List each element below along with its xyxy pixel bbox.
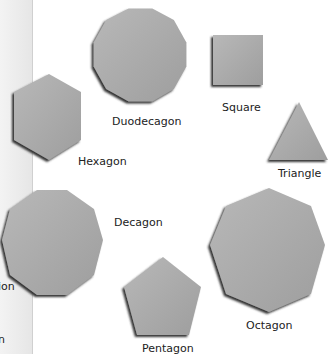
label-hexagon: Hexagon: [78, 155, 127, 168]
pentagon-shape: [124, 257, 201, 335]
octagon-shape: [210, 188, 325, 312]
label-octagon: Octagon: [246, 319, 292, 332]
hexagon-shape: [14, 74, 81, 160]
square-shape: [213, 35, 263, 85]
decagon-shape: [2, 190, 103, 295]
label-duodecagon: Duodecagon: [112, 115, 181, 128]
triangle-shape: [269, 102, 328, 160]
label-square: Square: [222, 101, 261, 114]
label-triangle: Triangle: [278, 167, 321, 180]
label-decagon: Decagon: [114, 216, 163, 229]
duodecagon-shape: [94, 9, 187, 102]
label-pentagon: Pentagon: [142, 342, 194, 354]
